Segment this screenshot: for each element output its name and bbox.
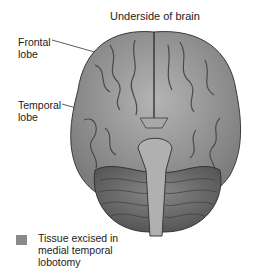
legend-swatch (16, 235, 27, 245)
legend-line3: lobotomy (38, 256, 148, 268)
legend-line2: medial temporal (38, 244, 148, 256)
legend-text: Tissue excised in medial temporal loboto… (38, 232, 148, 268)
legend-line1: Tissue excised in (38, 232, 148, 244)
